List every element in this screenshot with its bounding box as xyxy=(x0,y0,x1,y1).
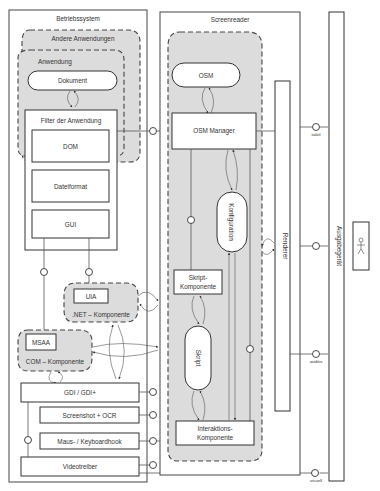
screenshot-ocr-node: Screenshot + OCR xyxy=(40,407,139,423)
uia-label: UIA xyxy=(86,293,97,300)
script-node: Skript xyxy=(185,326,211,390)
svg-text:Videotreiber: Videotreiber xyxy=(63,463,98,470)
auditory-label: auditiv xyxy=(310,359,323,364)
gdi-node: GDI / GDI+ xyxy=(21,383,139,402)
video-port xyxy=(150,462,157,469)
svg-text:Maus- / Keyboardhook: Maus- / Keyboardhook xyxy=(57,438,122,446)
svg-text:Interaktions-: Interaktions- xyxy=(197,425,232,432)
configuration-node: Konfiguration xyxy=(217,192,247,252)
filter-layer-gui: GUI xyxy=(32,210,109,238)
os-title: Betriebssystem xyxy=(56,15,100,23)
svg-text:Komponente: Komponente xyxy=(197,434,234,442)
net-component-title: .NET – Komponente xyxy=(72,311,130,319)
filter-layer-dateiformat: Dateiformat xyxy=(32,170,109,202)
filter-layer-dom: DOM xyxy=(32,130,109,162)
hook-port xyxy=(150,438,157,445)
script-component-node: Skript- Komponente xyxy=(174,270,222,294)
visual-output-port xyxy=(312,470,319,477)
svg-text:DOM: DOM xyxy=(63,143,78,150)
ocr-port xyxy=(150,412,157,419)
hook-node: Maus- / Keyboardhook xyxy=(40,433,139,449)
msaa-port xyxy=(41,269,48,276)
svg-text:Ausgabegerät: Ausgabegerät xyxy=(335,226,343,266)
uia-port xyxy=(86,269,93,276)
osm-manager-node: OSM Manager xyxy=(172,113,256,149)
video-driver-node: Videotreiber xyxy=(21,457,139,476)
svg-text:Skript-: Skript- xyxy=(189,274,207,282)
svg-text:Screenshot + OCR: Screenshot + OCR xyxy=(63,412,117,419)
com-component-title: COM – Komponente xyxy=(26,358,85,366)
svg-text:Konfiguration: Konfiguration xyxy=(227,203,235,241)
filter-osm-port xyxy=(150,128,157,135)
auditory-port xyxy=(313,351,320,358)
output-device-node: Ausgabegerät xyxy=(329,12,344,481)
osm-node: OSM xyxy=(172,63,240,87)
gdi-port xyxy=(150,389,157,396)
center-output-port xyxy=(313,243,320,250)
com-component: MSAA COM – Komponente xyxy=(18,330,92,371)
svg-text:Dateiformat: Dateiformat xyxy=(54,183,87,190)
renderer-node: Renderer xyxy=(275,81,290,411)
user-node xyxy=(353,222,369,270)
screenreader-core-group xyxy=(168,32,262,461)
interaction-component-node: Interaktions- Komponente xyxy=(176,421,254,445)
svg-text:Renderer: Renderer xyxy=(282,233,289,261)
svg-text:Komponente: Komponente xyxy=(180,283,217,291)
screenreader-title: Screenreader xyxy=(211,16,251,23)
screenreader-architecture-diagram: Betriebssystem Andere Anwendungen Anwend… xyxy=(0,0,380,491)
script-config-port xyxy=(188,217,195,224)
tactile-label: taktil xyxy=(311,132,320,137)
application-filter: Filter der Anwendung DOM Dateiformat GUI xyxy=(25,110,117,250)
interaction-port xyxy=(247,346,254,353)
svg-text:OSM Manager: OSM Manager xyxy=(193,127,235,135)
visual-label: visuell xyxy=(310,478,322,483)
svg-text:Filter der Anwendung: Filter der Anwendung xyxy=(41,117,102,125)
net-component: UIA .NET – Komponente xyxy=(64,283,138,322)
svg-text:GUI: GUI xyxy=(65,221,77,228)
svg-text:Dokument: Dokument xyxy=(58,77,87,84)
other-applications-title: Andere Anwendungen xyxy=(52,35,115,43)
msaa-label: MSAA xyxy=(32,339,51,346)
document-node: Dokument xyxy=(28,71,117,90)
svg-text:GDI / GDI+: GDI / GDI+ xyxy=(64,389,96,396)
svg-text:OSM: OSM xyxy=(199,72,214,79)
gdi-video-port xyxy=(25,437,32,444)
tactile-port xyxy=(313,124,320,131)
application-title: Anwendung xyxy=(38,58,72,66)
svg-text:Skript: Skript xyxy=(194,350,202,367)
